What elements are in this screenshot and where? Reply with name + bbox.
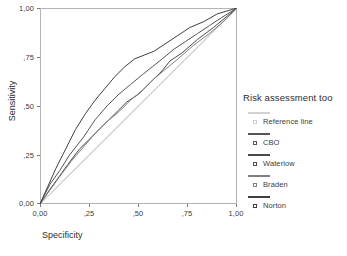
- legend-label: Waterlow: [263, 159, 295, 168]
- y-tick-label-0: 0,00: [12, 199, 34, 208]
- x-tick-label-25: ,25: [76, 209, 102, 218]
- legend-entry-reference-line[interactable]: Reference line: [243, 109, 347, 130]
- legend-label: Norton: [263, 201, 286, 210]
- legend-label: Braden: [263, 180, 288, 189]
- y-tick-mark-75: [37, 57, 40, 58]
- legend-entry-cbo[interactable]: CBO: [243, 130, 347, 151]
- legend-marker-square-icon: [253, 141, 257, 145]
- legend-items: Reference lineCBOWaterlowBradenNorton: [243, 109, 347, 214]
- legend: Risk assessment too Reference lineCBOWat…: [243, 92, 347, 214]
- x-tick-mark-75: [187, 204, 188, 207]
- legend-swatch-line-icon: [248, 175, 270, 177]
- x-axis-title: Specificity: [42, 230, 83, 240]
- x-tick-mark-0: [40, 204, 41, 207]
- legend-entry-braden[interactable]: Braden: [243, 172, 347, 193]
- legend-swatch-line-icon: [248, 196, 270, 198]
- x-tick-mark-100: [236, 204, 237, 207]
- legend-marker-square-icon: [253, 162, 257, 166]
- x-tick-label-50: ,50: [125, 209, 151, 218]
- roc-chart: 1,00 ,75 ,50 ,25 0,00 0,00 ,25 ,50 ,75 1…: [0, 0, 347, 256]
- legend-label: CBO: [263, 138, 280, 147]
- legend-entry-norton[interactable]: Norton: [243, 193, 347, 214]
- legend-marker-square-icon: [253, 120, 257, 124]
- legend-label: Reference line: [263, 117, 313, 126]
- legend-title: Risk assessment too: [243, 92, 347, 103]
- y-tick-mark-100: [37, 8, 40, 9]
- legend-swatch-line-icon: [248, 112, 270, 114]
- legend-entry-waterlow[interactable]: Waterlow: [243, 151, 347, 172]
- legend-swatch-line-icon: [248, 154, 270, 156]
- y-tick-mark-50: [37, 106, 40, 107]
- y-axis-title: Sensitivity: [7, 66, 17, 136]
- series-line-reference-line: [40, 8, 237, 204]
- x-tick-mark-25: [89, 204, 90, 207]
- legend-swatch-line-icon: [248, 133, 270, 135]
- y-tick-label-25: ,25: [12, 151, 34, 160]
- x-tick-mark-50: [138, 204, 139, 207]
- x-tick-label-0: 0,00: [27, 209, 53, 218]
- legend-marker-square-icon: [253, 204, 257, 208]
- y-tick-label-100: 1,00: [12, 4, 34, 13]
- x-tick-label-75: ,75: [174, 209, 200, 218]
- y-tick-mark-25: [37, 155, 40, 156]
- y-tick-label-75: ,75: [12, 53, 34, 62]
- legend-marker-square-icon: [253, 183, 257, 187]
- roc-curves-svg: [40, 8, 237, 204]
